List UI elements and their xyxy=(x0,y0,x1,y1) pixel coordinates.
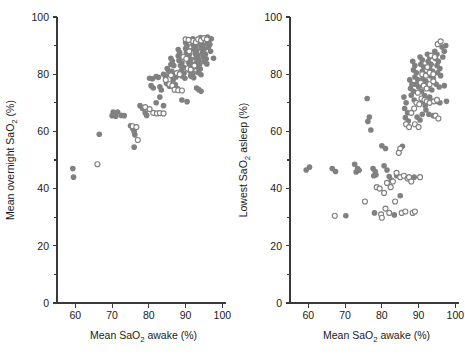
data-point xyxy=(383,146,389,152)
data-point xyxy=(390,179,395,184)
data-point xyxy=(332,213,337,218)
data-point xyxy=(96,131,102,137)
data-point xyxy=(372,210,378,216)
data-point xyxy=(396,150,401,155)
data-point xyxy=(440,54,446,60)
data-point xyxy=(132,132,138,138)
data-point xyxy=(198,89,204,95)
data-point xyxy=(431,79,436,84)
data-point xyxy=(121,113,127,119)
data-point xyxy=(157,94,163,100)
data-point xyxy=(95,162,100,167)
data-point xyxy=(356,168,362,174)
data-point xyxy=(377,186,382,191)
series-open xyxy=(332,39,443,220)
data-point xyxy=(442,49,448,55)
data-point xyxy=(431,72,436,77)
data-point xyxy=(184,99,190,105)
data-point xyxy=(362,199,367,204)
data-point xyxy=(436,116,441,121)
x-tick-label: 100 xyxy=(447,309,465,321)
data-point xyxy=(182,75,188,81)
data-point xyxy=(343,213,349,219)
x-tick-label: 60 xyxy=(303,309,315,321)
data-point xyxy=(161,103,167,109)
data-point xyxy=(401,94,407,100)
data-point xyxy=(429,87,435,93)
data-point xyxy=(438,73,444,79)
data-point xyxy=(384,180,389,185)
data-point xyxy=(208,49,214,55)
data-point xyxy=(156,75,162,81)
data-point xyxy=(184,56,189,61)
data-point xyxy=(416,125,421,130)
data-point xyxy=(382,190,387,195)
data-point xyxy=(70,166,76,172)
data-point xyxy=(168,73,173,78)
y-tick-label: 40 xyxy=(37,182,49,194)
x-tick-label: 90 xyxy=(180,309,192,321)
data-point xyxy=(177,72,182,77)
x-tick-label: 80 xyxy=(143,309,155,321)
y-axis-title: Lowest SaO2 asleep (%) xyxy=(237,103,252,218)
data-point xyxy=(307,164,313,170)
data-point xyxy=(364,96,370,102)
y-tick-label: 100 xyxy=(31,11,49,23)
data-point xyxy=(407,125,412,130)
y-tick-label: 20 xyxy=(270,240,282,252)
data-point xyxy=(131,144,137,150)
data-point xyxy=(198,72,204,78)
data-point xyxy=(434,97,439,102)
y-tick-label: 60 xyxy=(37,125,49,137)
plot-area-right: 02040608010060708090100Mean SaO2 awake (… xyxy=(233,0,465,355)
data-point xyxy=(373,172,379,178)
data-point xyxy=(204,37,209,42)
data-point xyxy=(379,215,384,220)
data-point xyxy=(365,119,371,125)
data-point xyxy=(150,85,156,91)
data-point xyxy=(412,209,417,214)
data-point xyxy=(442,83,448,89)
data-point xyxy=(388,185,393,190)
data-point xyxy=(135,137,140,142)
data-point xyxy=(419,111,425,117)
data-point xyxy=(163,77,168,82)
data-point xyxy=(412,106,417,111)
data-point xyxy=(186,37,191,42)
y-axis-title: Mean overnight SaO2 (%) xyxy=(4,100,19,220)
x-tick-label: 70 xyxy=(106,309,118,321)
x-axis-title: Mean SaO2 awake (%) xyxy=(90,329,197,344)
data-point xyxy=(179,88,184,93)
data-point xyxy=(444,99,450,105)
y-tick-label: 80 xyxy=(270,68,282,80)
data-point xyxy=(171,63,177,69)
y-tick-label: 100 xyxy=(264,11,282,23)
data-point xyxy=(134,125,139,130)
x-tick-label: 100 xyxy=(214,309,232,321)
data-point xyxy=(392,212,398,218)
data-point xyxy=(144,113,150,119)
data-point xyxy=(71,174,77,180)
data-point xyxy=(417,102,422,107)
data-point xyxy=(179,97,185,103)
plot-area-left: 02040608010060708090100Mean SaO2 awake (… xyxy=(0,0,232,355)
x-tick-label: 70 xyxy=(339,309,351,321)
data-point xyxy=(387,210,392,215)
data-point xyxy=(432,55,437,60)
data-point xyxy=(333,169,339,175)
data-point xyxy=(192,63,197,68)
data-point xyxy=(204,61,210,67)
data-point xyxy=(161,111,166,116)
data-point xyxy=(153,100,159,106)
data-point xyxy=(368,127,374,133)
y-tick-label: 80 xyxy=(37,68,49,80)
data-point xyxy=(443,43,449,49)
data-point xyxy=(187,49,192,54)
data-point xyxy=(418,175,423,180)
scatter-panel-right: 02040608010060708090100Mean SaO2 awake (… xyxy=(233,0,465,355)
figure-container: 02040608010060708090100Mean SaO2 awake (… xyxy=(0,0,465,355)
x-tick-label: 90 xyxy=(413,309,425,321)
data-point xyxy=(394,170,399,175)
y-tick-label: 40 xyxy=(270,182,282,194)
x-tick-label: 80 xyxy=(376,309,388,321)
